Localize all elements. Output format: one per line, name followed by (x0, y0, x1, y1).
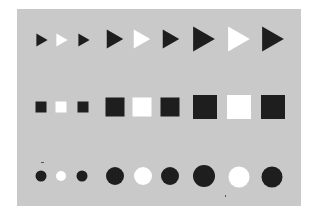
black-square-icon (193, 95, 217, 119)
circle-row (36, 165, 283, 188)
noise-speck (41, 162, 44, 163)
black-triangle-icon (78, 34, 89, 47)
black-square-icon (36, 102, 47, 113)
black-circle-icon (193, 165, 215, 187)
white-square-icon (133, 98, 152, 117)
white-triangle-icon (56, 34, 67, 47)
white-triangle-icon (134, 30, 151, 49)
black-circle-icon (77, 171, 88, 182)
black-square-icon (106, 98, 125, 117)
black-triangle-icon (193, 27, 215, 52)
triangle-row (36, 27, 284, 52)
white-circle-icon (229, 167, 250, 188)
noise-speck (225, 195, 226, 197)
black-circle-icon (106, 167, 124, 185)
black-square-icon (261, 95, 285, 119)
white-square-icon (56, 102, 67, 113)
black-square-icon (161, 98, 180, 117)
white-circle-icon (134, 167, 152, 185)
shape-grid (0, 0, 315, 217)
black-triangle-icon (36, 34, 47, 47)
white-square-icon (227, 95, 251, 119)
black-triangle-icon (262, 27, 284, 52)
black-circle-icon (262, 167, 283, 188)
black-square-icon (78, 102, 89, 113)
square-row (36, 95, 286, 119)
white-triangle-icon (228, 27, 250, 52)
black-triangle-icon (163, 30, 180, 49)
stimulus-canvas (0, 0, 315, 217)
black-circle-icon (161, 167, 179, 185)
white-circle-icon (56, 171, 66, 181)
black-triangle-icon (107, 30, 124, 49)
black-circle-icon (36, 171, 47, 182)
